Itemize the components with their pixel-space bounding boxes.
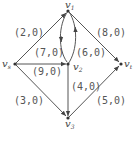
edge-v2-v1 <box>68 12 76 64</box>
node-vt <box>119 62 122 65</box>
edge-label-vs-v2: (9,0) <box>32 66 62 77</box>
edge-label-vs-v1: (2,0) <box>14 27 44 38</box>
node-label-v3: v3 <box>65 118 75 130</box>
node-vs <box>13 62 16 65</box>
edge-label-v3-vt: (5,0) <box>96 95 126 106</box>
node-label-vs: vs <box>2 58 11 70</box>
node-v2 <box>66 62 69 65</box>
edge-label-vs-v3: (3,0) <box>14 95 44 106</box>
flow-network-diagram: v1 vs v2 vt v3 (2,0) (8,0) (7,0) (6,0) (… <box>0 0 134 143</box>
node-label-v1: v1 <box>65 0 74 11</box>
edge-v3-vt <box>68 66 119 118</box>
node-label-v2: v2 <box>73 61 83 73</box>
edge-label-v1-vt: (8,0) <box>96 27 126 38</box>
edge-label-v1-v2: (7,0) <box>34 47 64 58</box>
edge-label-v2-v3: (4,0) <box>71 81 101 92</box>
edge-label-v2-v1: (6,0) <box>76 47 106 58</box>
node-label-vt: vt <box>124 58 133 70</box>
